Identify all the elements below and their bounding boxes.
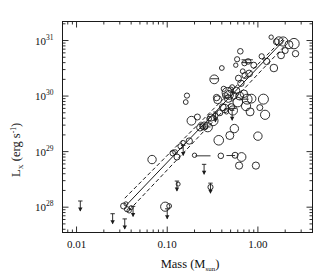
upper-limit-arrow xyxy=(202,164,206,175)
data-point-circle xyxy=(258,94,268,104)
data-point-circle xyxy=(269,35,273,39)
figure-root: 0.010.101.001028102910301031 LX (erg s-1… xyxy=(0,0,331,276)
y-tick-label: 1028 xyxy=(35,199,54,213)
y-tick-label: 1031 xyxy=(35,33,54,47)
upper-limit-arrow xyxy=(230,110,234,121)
data-point-circle xyxy=(214,135,224,145)
y-axis-title: LX (erg s-1) xyxy=(9,123,25,177)
y-tick-label: 1029 xyxy=(35,144,54,158)
confidence-band-lower xyxy=(129,45,285,210)
data-point-circle xyxy=(214,96,222,104)
x-tick-label: 0.10 xyxy=(158,238,178,250)
upper-limit-arrow xyxy=(123,219,127,230)
svg-text:Mass (Msun): Mass (Msun) xyxy=(161,257,220,273)
data-point-circle xyxy=(194,114,200,120)
plot-frame xyxy=(63,22,313,233)
data-point-circle xyxy=(235,162,242,169)
data-point-circle xyxy=(254,132,262,140)
scatter-plot-canvas: 0.010.101.001028102910301031 LX (erg s-1… xyxy=(0,0,331,276)
y-tick-label: 1030 xyxy=(35,88,54,102)
regression-fit xyxy=(127,40,284,204)
svg-text:LX (erg s-1): LX (erg s-1) xyxy=(9,123,25,177)
data-point-circle xyxy=(210,75,219,84)
data-point-circle xyxy=(289,38,299,48)
upper-limit-arrow xyxy=(110,214,114,225)
data-point-circle xyxy=(219,66,224,71)
data-point-circle xyxy=(183,100,188,105)
data-point-circle xyxy=(235,57,240,62)
data-point-circle xyxy=(238,48,244,54)
upper-limit-arrow xyxy=(78,201,82,212)
x-axis-title: Mass (Msun) xyxy=(161,257,220,273)
data-points-layer xyxy=(78,35,299,229)
data-point-circle xyxy=(148,155,156,163)
axis-tick-labels: 0.010.101.001028102910301031 xyxy=(35,33,268,250)
data-point-circle xyxy=(184,93,189,98)
data-point-circle xyxy=(218,153,224,159)
data-point-circle xyxy=(230,124,238,132)
data-point-circle xyxy=(263,58,269,64)
axis-ticks xyxy=(63,22,313,233)
data-point-circle xyxy=(234,63,238,67)
upper-limit-arrow xyxy=(165,209,169,220)
data-point-circle xyxy=(292,50,298,56)
data-point-circle xyxy=(260,110,269,119)
data-point-circle xyxy=(252,162,259,169)
data-point-circle xyxy=(257,105,263,111)
data-point-circle xyxy=(237,153,246,162)
data-point-circle xyxy=(270,64,278,72)
data-point-circle xyxy=(192,153,196,157)
x-tick-label: 1.00 xyxy=(248,238,268,250)
x-tick-label: 0.01 xyxy=(67,238,86,250)
